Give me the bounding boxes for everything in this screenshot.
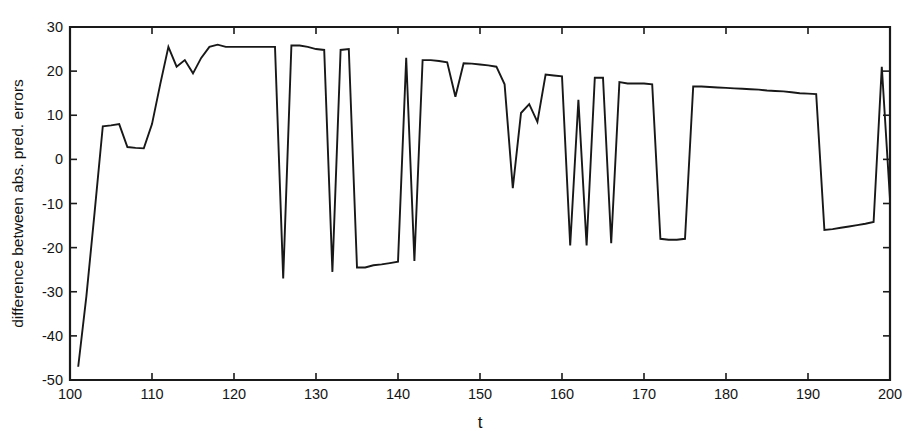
data-series-line bbox=[78, 45, 890, 367]
y-axis-tick-label: 30 bbox=[47, 19, 63, 35]
x-axis-tick-label: 180 bbox=[714, 386, 738, 402]
y-axis-tick-labels: -50-40-30-20-100102030 bbox=[42, 19, 63, 388]
x-axis-tick-label: 160 bbox=[550, 386, 574, 402]
x-axis-title: t bbox=[478, 413, 483, 432]
y-axis-tick-label: 10 bbox=[47, 107, 63, 123]
x-axis-tick-label: 150 bbox=[468, 386, 492, 402]
x-axis-tick-label: 140 bbox=[386, 386, 410, 402]
x-axis-tick-labels: 100110120130140150160170180190200 bbox=[58, 386, 902, 402]
y-axis-tick-label: -10 bbox=[42, 196, 63, 212]
y-axis-tick-label: -20 bbox=[42, 240, 63, 256]
y-axis-tick-label: 0 bbox=[55, 151, 63, 167]
y-axis-tick-label: 20 bbox=[47, 63, 63, 79]
x-axis-tick-label: 120 bbox=[222, 386, 246, 402]
chart-plot-area: 100110120130140150160170180190200 -50-40… bbox=[9, 19, 902, 432]
x-axis-ticks bbox=[70, 27, 890, 380]
x-axis-tick-label: 100 bbox=[58, 386, 82, 402]
axes-frame bbox=[70, 27, 890, 380]
y-axis-ticks bbox=[70, 27, 890, 380]
x-axis-tick-label: 190 bbox=[796, 386, 820, 402]
y-axis-tick-label: -30 bbox=[42, 284, 63, 300]
y-axis-tick-label: -40 bbox=[42, 328, 63, 344]
x-axis-tick-label: 130 bbox=[304, 386, 328, 402]
chart-figure: 100110120130140150160170180190200 -50-40… bbox=[0, 0, 922, 433]
x-axis-tick-label: 110 bbox=[140, 386, 163, 402]
line-chart: 100110120130140150160170180190200 -50-40… bbox=[0, 0, 922, 433]
y-axis-title: difference between abs. pred. errors bbox=[9, 79, 26, 328]
x-axis-tick-label: 170 bbox=[632, 386, 656, 402]
y-axis-tick-label: -50 bbox=[42, 372, 63, 388]
x-axis-tick-label: 200 bbox=[878, 386, 902, 402]
